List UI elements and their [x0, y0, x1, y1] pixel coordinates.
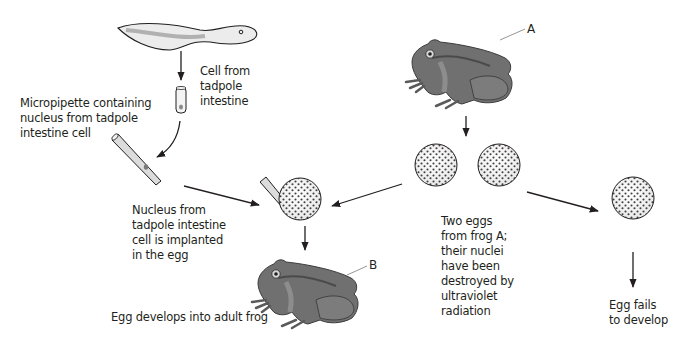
intestine-cell-tube — [176, 87, 186, 114]
frog-b-pointer — [347, 266, 367, 275]
egg-1 — [410, 140, 462, 192]
egg-2 — [473, 140, 525, 192]
label-cell-from-tadpole: Cell from tadpole intestine — [200, 64, 250, 109]
label-egg-develops: Egg develops into adult frog — [111, 310, 268, 325]
label-frog-b: B — [369, 258, 377, 273]
label-nucleus-implanted: Nucleus from tadpole intestine cell is i… — [132, 203, 226, 263]
arrow-cell-to-pipette — [157, 121, 180, 157]
frog-b-illustration — [252, 260, 358, 328]
label-micropipette: Micropipette containing nucleus from tad… — [20, 96, 151, 141]
label-egg-fails: Egg fails to develop — [609, 298, 668, 328]
implanted-egg — [260, 174, 326, 226]
failed-egg — [607, 172, 659, 224]
frog-a-pointer — [500, 29, 525, 40]
arrow-egg2-to-failed — [527, 192, 598, 211]
frog-a-illustration — [406, 40, 512, 108]
label-two-eggs: Two eggs from frog A; their nuclei have … — [441, 214, 514, 319]
arrow-egg1-to-implanted — [332, 184, 402, 206]
label-frog-a: A — [527, 22, 535, 37]
tadpole-illustration — [118, 24, 257, 50]
diagram-canvas — [0, 0, 686, 349]
